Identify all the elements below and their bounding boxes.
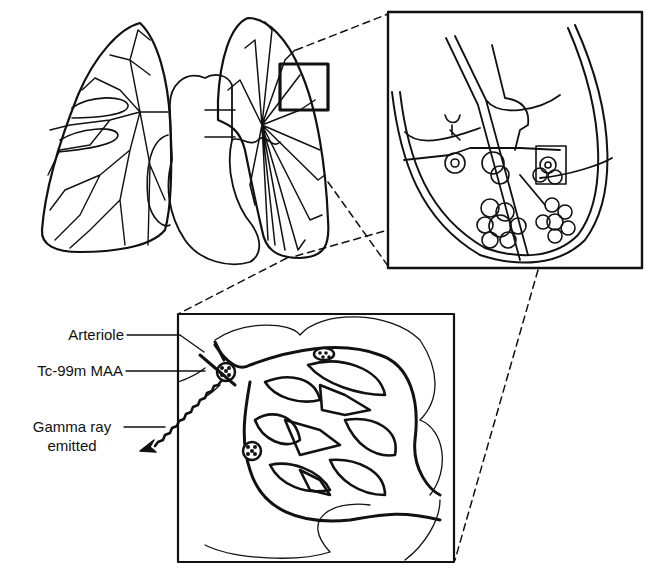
label-gamma-ray: Gamma ray xyxy=(20,418,124,435)
gamma-ray xyxy=(140,380,222,452)
leader-lines xyxy=(124,335,205,427)
capillary-lobes xyxy=(255,362,396,495)
gamma-ray-wave xyxy=(155,380,222,446)
segment-bronchioles xyxy=(404,36,612,260)
left-lung-vessels xyxy=(228,22,325,250)
maa-particle-top xyxy=(314,348,334,360)
diagram-canvas xyxy=(0,0,649,584)
lungs-overview xyxy=(42,18,328,264)
lung-region-highlight xyxy=(280,64,328,110)
maa-particle-lower xyxy=(243,442,261,460)
label-tc99m-maa: Tc-99m MAA xyxy=(10,362,123,379)
label-gamma-ray-emitted: emitted xyxy=(20,437,124,454)
gamma-ray-arrowhead-icon xyxy=(140,440,156,452)
right-lung-outline xyxy=(42,23,171,252)
label-arteriole: Arteriole xyxy=(48,326,124,343)
side-vessel xyxy=(178,368,205,382)
alveolus-zoom xyxy=(178,314,454,562)
right-lung-vessels xyxy=(48,30,168,248)
lung-segment-zoom xyxy=(388,12,642,268)
heart-outline xyxy=(168,75,259,264)
